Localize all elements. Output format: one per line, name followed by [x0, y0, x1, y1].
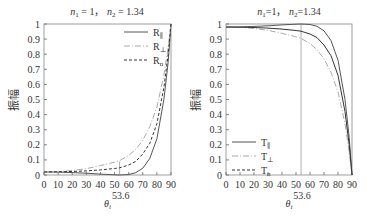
x-tick-label: 30: [81, 179, 91, 190]
y-tick-label: 0.9: [210, 34, 223, 45]
y-tick-label: 0.6: [28, 79, 41, 90]
y-tick-label: 0.3: [210, 124, 223, 135]
x-tick-label: 30: [263, 179, 273, 190]
chart-title: n1 = 1， n2 = 1.34: [70, 6, 143, 19]
y-tick-label: 0.7: [28, 64, 41, 75]
x-tick-label: 20: [249, 179, 259, 190]
x-tick-label: 70: [319, 179, 329, 190]
y-tick-label: 0.4: [210, 109, 223, 120]
y-tick-label: 0.1: [210, 154, 223, 165]
y-axis-label: 振幅: [7, 89, 21, 111]
series-line-T∥: [226, 24, 352, 175]
chart-panel-2: n1=1， n2=1.3400.10.20.30.40.50.60.70.80.…: [189, 6, 357, 211]
x-tick-label: 40: [95, 179, 105, 190]
annotation-label: 53.6: [293, 190, 311, 201]
x-tick-label: 80: [333, 179, 343, 190]
x-tick-label: 0: [42, 179, 47, 190]
y-tick-label: 0.1: [28, 154, 41, 165]
y-tick-label: 0.8: [210, 49, 223, 60]
legend-label: T∥: [261, 137, 270, 150]
series-line-R∥: [44, 24, 171, 175]
x-tick-label: 90: [166, 179, 176, 190]
x-tick-label: 80: [152, 179, 162, 190]
y-tick-label: 0.3: [28, 124, 41, 135]
y-tick-label: 0.4: [28, 109, 41, 120]
y-tick-label: 0.9: [28, 34, 41, 45]
series-line-R⊥: [44, 24, 171, 172]
x-tick-label: 10: [53, 179, 63, 190]
y-tick-label: 0.6: [210, 79, 223, 90]
y-tick-label: 0: [35, 170, 40, 181]
x-tick-label: 60: [124, 179, 134, 190]
x-tick-label: 40: [277, 179, 287, 190]
series-line-Rn: [44, 24, 171, 172]
x-tick-label: 50: [110, 179, 120, 190]
x-tick-label: 0: [224, 179, 229, 190]
y-tick-label: 1: [217, 19, 222, 30]
x-tick-label: 90: [347, 179, 357, 190]
y-tick-label: 0.7: [210, 64, 223, 75]
x-tick-label: 70: [138, 179, 148, 190]
legend-label: T⊥: [261, 151, 274, 164]
y-tick-label: 0.8: [28, 49, 41, 60]
x-tick-label: 60: [305, 179, 315, 190]
x-axis-label: θi: [104, 198, 111, 211]
x-tick-label: 20: [67, 179, 77, 190]
legend-label: Tn: [261, 165, 271, 178]
annotation-label: 53.6: [112, 190, 130, 201]
series-line-Tn: [226, 27, 352, 175]
y-tick-label: 0.2: [210, 139, 223, 150]
y-tick-label: 0.5: [210, 94, 223, 105]
y-axis-label: 振幅: [189, 89, 203, 111]
y-tick-label: 1: [35, 19, 40, 30]
legend-label: R∥: [153, 27, 163, 40]
legend-label: R⊥: [153, 41, 166, 54]
chart-canvas: n1 = 1， n2 = 1.3400.10.20.30.40.50.60.70…: [0, 0, 369, 218]
y-tick-label: 0.5: [28, 94, 41, 105]
x-axis-label: θi: [286, 198, 293, 211]
legend-label: Rn: [153, 55, 164, 68]
chart-title: n1=1， n2=1.34: [257, 6, 320, 19]
series-line-T⊥: [226, 27, 352, 175]
x-tick-label: 50: [291, 179, 301, 190]
y-tick-label: 0.2: [28, 139, 41, 150]
y-tick-label: 0: [217, 170, 222, 181]
chart-panel-1: n1 = 1， n2 = 1.3400.10.20.30.40.50.60.70…: [7, 6, 176, 211]
x-tick-label: 10: [235, 179, 245, 190]
